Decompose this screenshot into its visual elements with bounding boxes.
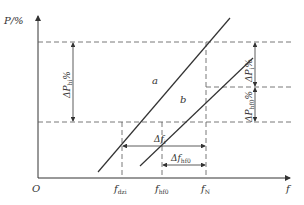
frequency-power-diagram: P/% f O a b fdzi fhf0 fN Δfi Δfhf0 ΔPhi%…	[0, 0, 304, 205]
delta-P-i-label: ΔPi%	[244, 59, 255, 83]
delta-f-hf0-label: Δfhf0	[170, 153, 191, 164]
line-a-label: a	[152, 75, 158, 86]
tick-f-dzi: fdzi	[113, 183, 127, 195]
delta-P-hi-label: ΔPhi%	[62, 71, 73, 99]
svg-text:ΔPi%: ΔPi%	[244, 59, 255, 83]
tick-f-N: fN	[200, 183, 210, 195]
tick-f-hf0: fhf0	[154, 183, 169, 195]
line-b-label: b	[180, 94, 186, 105]
y-axis-label: P/%	[3, 15, 24, 26]
x-axis-label: f	[285, 183, 292, 194]
svg-text:ΔPhi%: ΔPhi%	[62, 71, 73, 99]
origin-label: O	[32, 183, 40, 194]
svg-text:ΔPhf0%: ΔPhf0%	[244, 91, 255, 123]
delta-P-hf0-label: ΔPhf0%	[244, 91, 255, 123]
delta-f-i-label: Δfi	[153, 134, 166, 145]
line-a	[98, 18, 230, 172]
